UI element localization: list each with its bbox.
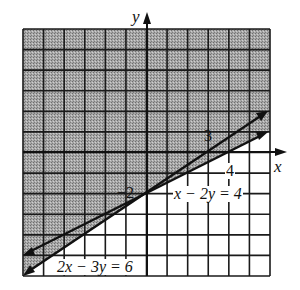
y-axis-arrow-icon [143,12,151,24]
y-axis-label: y [131,8,141,25]
tick-label-3: 3 [203,128,213,144]
x-axis-label: x [273,158,283,175]
arrow-right-icon [256,132,268,140]
equation-label-x-2y-4: x − 2y = 4 [173,186,243,202]
equation-label-2x-3y-6: 2x − 3y = 6 [56,259,134,275]
tick-label-neg2: −2 [116,185,135,201]
x-axis-arrow-icon [275,148,287,156]
tick-label-4: 4 [225,163,235,179]
coordinate-graph [0,0,300,290]
